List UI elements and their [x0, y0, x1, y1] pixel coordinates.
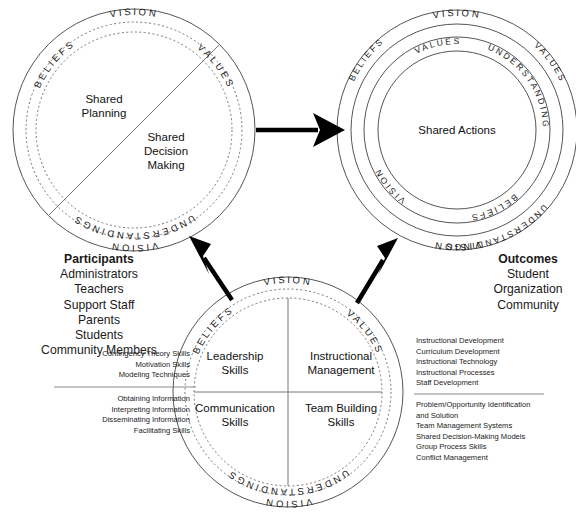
- outcomes-block: Outcomes Student Organization Community: [482, 252, 574, 313]
- skills-circle: VISION VISION BELIEFS VALUES UNDERSTANDI…: [173, 274, 403, 510]
- participants-item: Students: [6, 328, 192, 343]
- inner-ring-word-beliefs: BELIEFS: [469, 192, 520, 223]
- instructional-management-list: Instructional Development Curriculum Dev…: [416, 336, 576, 389]
- segment-shared-planning-line2: Planning: [82, 107, 127, 119]
- list-item: and Solution: [416, 411, 576, 422]
- list-item: Facilitating Skills: [22, 426, 190, 437]
- list-item: Instructional Development: [416, 336, 576, 347]
- list-item: Instructional Technology: [416, 357, 576, 368]
- inner-ring-word-values: VALUES: [413, 36, 461, 56]
- quadrant-leadership-line1: Leadership: [207, 350, 264, 362]
- participants-title: Participants: [6, 252, 192, 267]
- list-item: Motivation Skills: [38, 360, 190, 371]
- quadrant-instructional-line1: Instructional: [310, 350, 372, 362]
- list-item: Team Management Systems: [416, 421, 576, 432]
- participants-block: Participants Administrators Teachers Sup…: [6, 252, 192, 358]
- list-item: Group Process Skills: [416, 442, 576, 453]
- quadrant-instructional-line2: Management: [307, 364, 375, 376]
- team-building-list: Problem/Opportunity Identification and S…: [416, 400, 576, 464]
- ring-word-values: VALUES: [196, 41, 237, 90]
- segment-shared-decision-line2: Decision: [144, 145, 188, 157]
- arrow-planning-to-actions: [256, 113, 345, 147]
- outer-ring-word-vision-top: VISION: [432, 7, 483, 20]
- participants-item: Administrators: [6, 267, 192, 282]
- list-item: Instructional Processes: [416, 368, 576, 379]
- skills-ring-word-vision-top: VISION: [263, 274, 314, 288]
- arrow-skills-to-planning: [189, 236, 232, 300]
- list-item: Conflict Management: [416, 453, 576, 464]
- outcomes-item: Organization: [482, 282, 574, 297]
- list-item: Obtaining Information: [22, 394, 190, 405]
- ring-word-beliefs: BELIEFS: [31, 38, 76, 90]
- outcomes-item: Community: [482, 298, 574, 313]
- list-item: Shared Decision-Making Models: [416, 432, 576, 443]
- diagram-canvas: VISION VISION BELIEFS VALUES UNDERSTANDI…: [0, 0, 576, 513]
- quadrant-communication-line2: Skills: [222, 416, 249, 428]
- participants-item: Support Staff: [6, 298, 192, 313]
- quadrant-teambuilding-line2: Skills: [328, 416, 355, 428]
- shared-actions-label: Shared Actions: [418, 124, 496, 136]
- list-item: Staff Development: [416, 378, 576, 389]
- list-item: Disseminating Information: [22, 415, 190, 426]
- list-item: Curriculum Development: [416, 347, 576, 358]
- skills-ring-word-beliefs: BELIEFS: [190, 304, 235, 356]
- segment-shared-decision-line3: Making: [147, 159, 184, 171]
- list-item: Interpreting Information: [22, 405, 190, 416]
- list-item: Problem/Opportunity Identification: [416, 400, 576, 411]
- arrow-skills-to-actions: [357, 238, 398, 303]
- communication-skills-list: Obtaining Information Interpreting Infor…: [22, 394, 190, 436]
- list-item: Modeling Techniques: [38, 370, 190, 381]
- participants-item: Teachers: [6, 282, 192, 297]
- segment-shared-planning-line1: Shared: [85, 93, 122, 105]
- outcomes-title: Outcomes: [482, 252, 574, 267]
- quadrant-communication-line1: Communication: [195, 402, 275, 414]
- ring-word-vision-top: VISION: [109, 6, 159, 19]
- skills-ring-word-vision-bottom: VISION: [263, 496, 314, 510]
- skills-ring-word-values: VALUES: [345, 307, 386, 356]
- shared-planning-circle: VISION VISION BELIEFS VALUES UNDERSTANDI…: [13, 6, 255, 254]
- list-item: Contingency Theory Skills: [38, 349, 190, 360]
- quadrant-teambuilding-line1: Team Building: [305, 402, 377, 414]
- participants-item: Parents: [6, 313, 192, 328]
- leadership-skills-list: Contingency Theory Skills Motivation Ski…: [38, 349, 190, 381]
- quadrant-leadership-line2: Skills: [222, 364, 249, 376]
- outcomes-item: Student: [482, 267, 574, 282]
- segment-shared-decision-line1: Shared: [147, 131, 184, 143]
